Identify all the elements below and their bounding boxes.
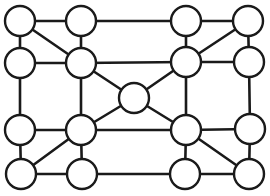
node-d2 (67, 159, 97, 189)
node-c4 (235, 114, 265, 144)
node-a2 (66, 6, 96, 36)
node-b1 (5, 48, 35, 78)
node-b3 (171, 47, 201, 77)
node-d3 (170, 159, 200, 189)
node-d1 (6, 159, 36, 189)
node-c3 (171, 115, 201, 145)
nodes-layer (5, 6, 265, 189)
node-b2 (66, 48, 96, 78)
node-a4 (233, 6, 263, 36)
node-a1 (5, 6, 35, 36)
node-b4 (234, 47, 264, 77)
node-a3 (171, 6, 201, 36)
node-c1 (5, 115, 35, 145)
graph-diagram (0, 0, 270, 196)
node-d4 (234, 159, 264, 189)
node-c (119, 83, 149, 113)
node-c2 (66, 115, 96, 145)
